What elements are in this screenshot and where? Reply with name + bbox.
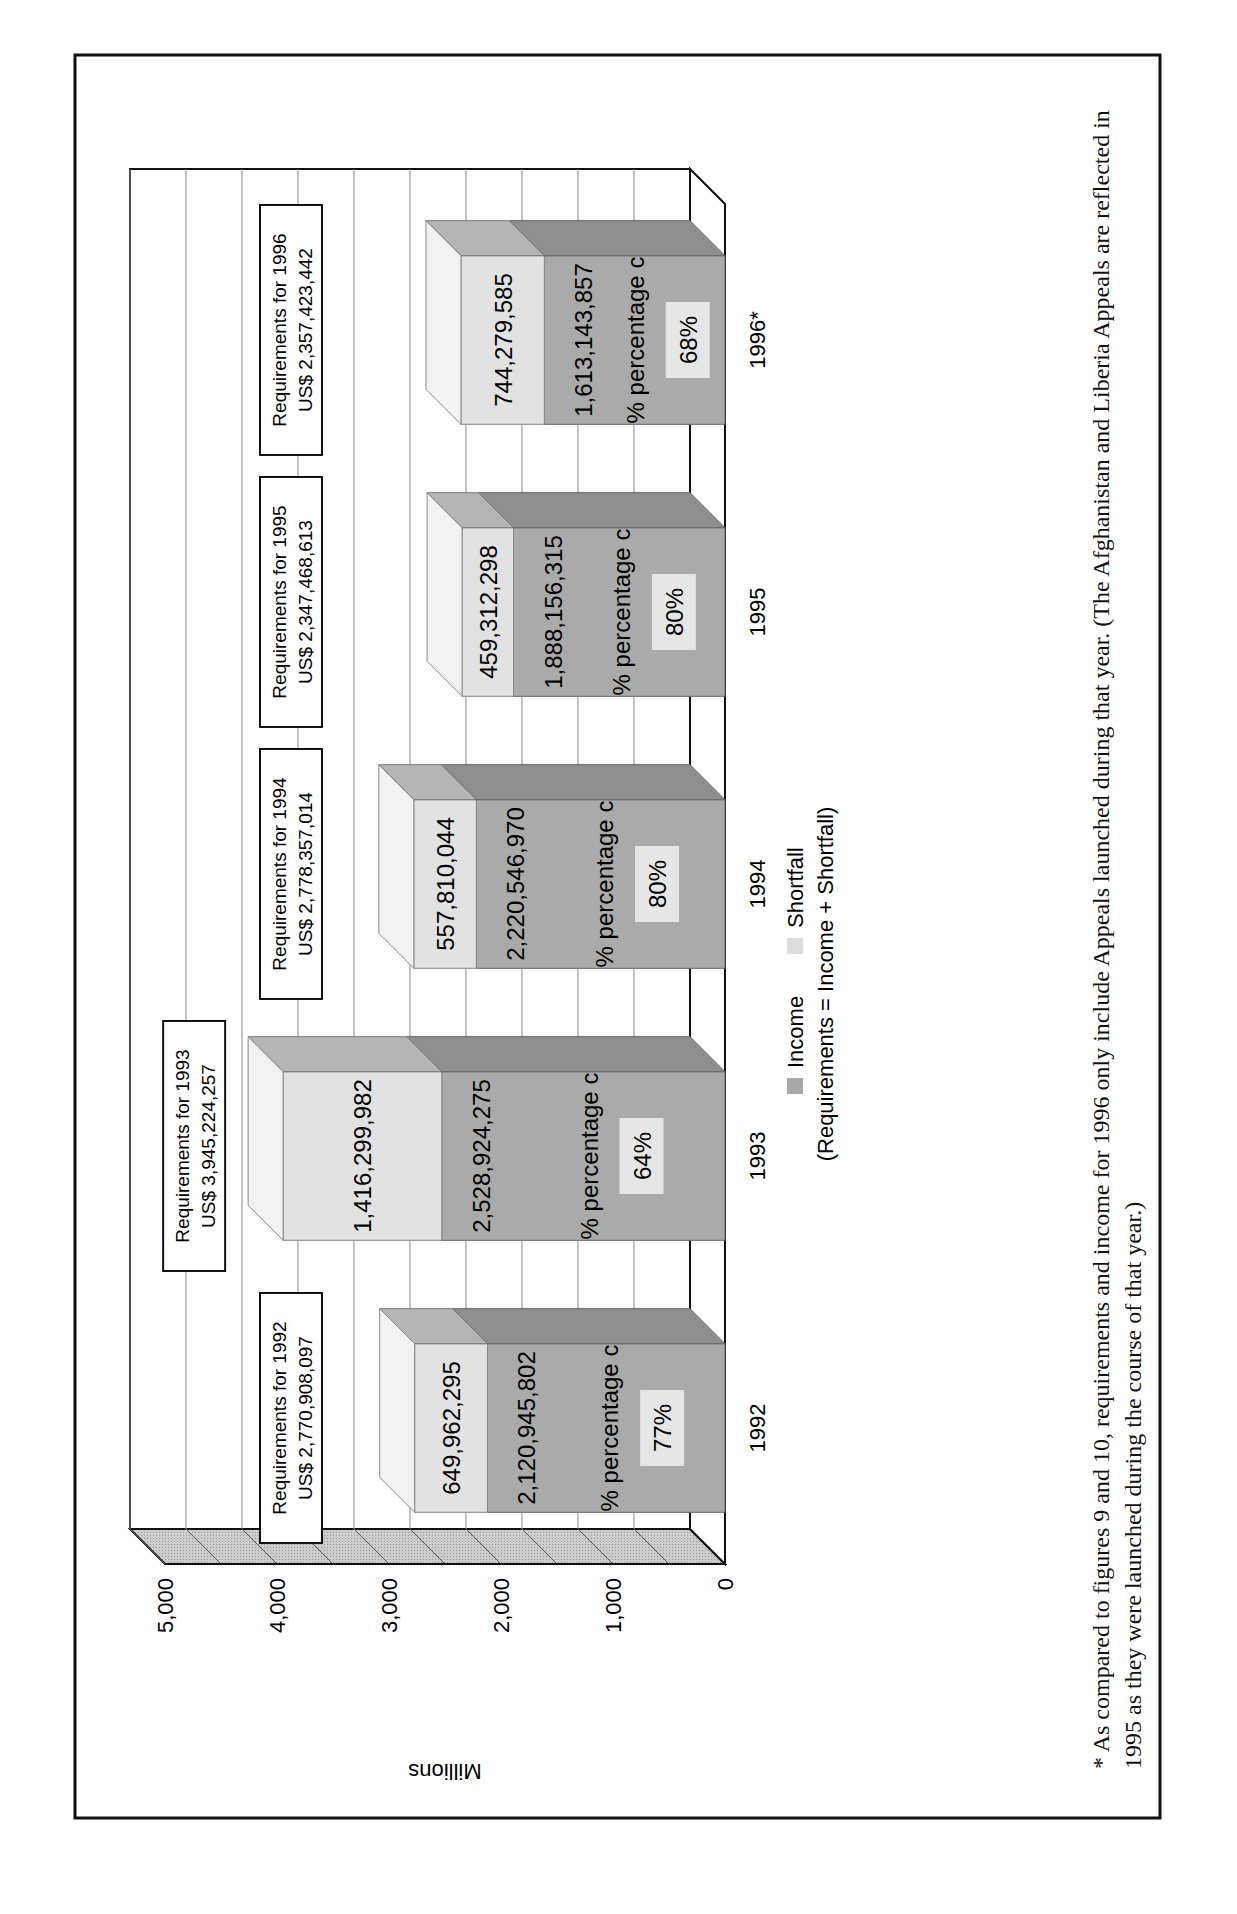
percentage-value: 64% (629, 1132, 656, 1180)
stacked-bar-chart: 01,0002,0003,0004,0005,000Millions649,96… (0, 0, 1237, 1914)
legend-swatch-income (787, 1078, 803, 1094)
requirements-amount: US$ 2,357,423,442 (295, 248, 316, 412)
income-value-label: 1,613,143,857 (570, 263, 597, 416)
income-value-label: 2,528,924,275 (468, 1079, 495, 1232)
income-value-label: 2,120,945,802 (513, 1351, 540, 1504)
percentage-caption: % percentage c (596, 1345, 623, 1512)
bar-top (426, 221, 461, 425)
shortfall-value-label: 459,312,298 (475, 545, 502, 678)
y-tick-label: 3,000 (377, 1578, 402, 1633)
requirements-amount: US$ 3,945,224,257 (198, 1064, 219, 1228)
percentage-value: 77% (649, 1404, 676, 1452)
y-tick-label: 2,000 (489, 1578, 514, 1633)
y-axis-title: Millions (408, 1759, 481, 1784)
bar-top (380, 1309, 415, 1513)
x-tick-label: 1994 (745, 860, 770, 909)
legend-label-income: Income (783, 996, 808, 1068)
x-tick-label: 1992 (745, 1404, 770, 1453)
bar-top (248, 1037, 283, 1241)
shortfall-value-label: 557,810,044 (432, 817, 459, 950)
requirements-label: Requirements for 1996 (269, 233, 290, 426)
requirements-amount: US$ 2,778,357,014 (295, 792, 316, 956)
requirements-label: Requirements for 1995 (269, 505, 290, 698)
bar-income-side (509, 221, 725, 256)
footnote: * As compared to figures 9 and 10, requi… (1085, 69, 1149, 1769)
income-value-label: 1,888,156,315 (540, 535, 567, 688)
x-tick-label: 1993 (745, 1132, 770, 1181)
requirements-label: Requirements for 1993 (172, 1049, 193, 1242)
legend-note: (Requirements = Income + Shortfall) (813, 807, 838, 1162)
shortfall-value-label: 1,416,299,982 (349, 1079, 376, 1232)
y-tick-label: 0 (713, 1578, 738, 1590)
bar-top (379, 765, 414, 969)
percentage-value: 68% (675, 316, 702, 364)
percentage-value: 80% (644, 860, 671, 908)
requirements-label: Requirements for 1992 (269, 1321, 290, 1514)
requirements-amount: US$ 2,347,468,613 (295, 520, 316, 684)
legend-swatch-shortfall (787, 938, 803, 954)
shortfall-value-label: 744,279,585 (490, 273, 517, 406)
bar-income-side (441, 765, 725, 800)
percentage-caption: % percentage c (576, 1073, 603, 1240)
percentage-value: 80% (661, 588, 688, 636)
y-tick-label: 5,000 (153, 1578, 178, 1633)
legend-label-shortfall: Shortfall (783, 847, 808, 928)
income-value-label: 2,220,546,970 (502, 807, 529, 960)
percentage-caption: % percentage c (608, 529, 635, 696)
requirements-label: Requirements for 1994 (269, 777, 290, 971)
bar-top (427, 493, 462, 697)
shortfall-value-label: 649,962,295 (438, 1361, 465, 1494)
y-tick-label: 1,000 (601, 1578, 626, 1633)
x-tick-label: 1996* (745, 311, 770, 369)
x-tick-label: 1995 (745, 588, 770, 637)
y-tick-label: 4,000 (265, 1578, 290, 1633)
rotated-page: 01,0002,0003,0004,0005,000Millions649,96… (0, 0, 1237, 1914)
requirements-amount: US$ 2,770,908,097 (295, 1336, 316, 1500)
bar-income-side (479, 493, 725, 528)
bar-income-side (452, 1309, 725, 1344)
percentage-caption: % percentage c (622, 257, 649, 424)
percentage-caption: % percentage c (591, 801, 618, 968)
bar-income-side (407, 1037, 725, 1072)
